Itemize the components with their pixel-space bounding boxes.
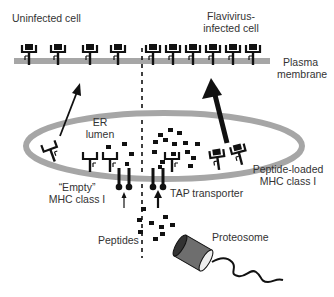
label-infected-cell-line1: Flavivirus- — [186, 10, 276, 22]
label-empty-mhc-line2: MHC class I — [42, 193, 112, 205]
label-peptide-loaded-mhc: Peptide-loaded MHC class I — [246, 163, 330, 187]
label-er-lumen-line2: lumen — [82, 128, 118, 140]
diagram-canvas — [0, 0, 334, 297]
label-plasma-membrane: Plasma membrane — [277, 56, 327, 80]
label-peptide-loaded-line1: Peptide-loaded — [246, 163, 330, 175]
label-tap-transporter: TAP transporter — [170, 187, 243, 199]
label-plasma-membrane-line1: Plasma — [277, 56, 327, 68]
er-mhc-peptide-loaded — [209, 143, 249, 171]
label-empty-mhc-line1: “Empty” — [42, 181, 112, 193]
label-er-lumen: ER lumen — [82, 116, 118, 140]
mhc-antigen-presentation-diagram: Uninfected cell Flavivirus- infected cel… — [0, 0, 334, 297]
label-infected-cell-line2: infected cell — [186, 22, 276, 34]
label-infected-cell: Flavivirus- infected cell — [186, 10, 276, 34]
label-er-lumen-line1: ER — [82, 116, 118, 128]
label-plasma-membrane-line2: membrane — [277, 68, 327, 80]
label-proteosome: Proteosome — [212, 231, 269, 243]
er-peptides — [106, 128, 200, 169]
thin-arrow-export — [60, 83, 81, 136]
thick-arrow-export — [202, 78, 227, 143]
label-empty-mhc: “Empty” MHC class I — [42, 181, 112, 205]
label-peptide-loaded-line2: MHC class I — [246, 175, 330, 187]
label-peptides: Peptides — [98, 234, 139, 246]
label-uninfected-cell: Uninfected cell — [12, 12, 81, 24]
